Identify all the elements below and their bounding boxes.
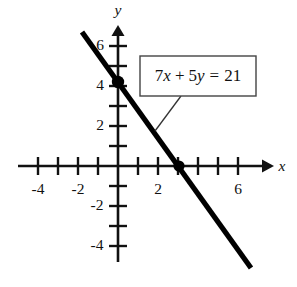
x-axis-label: x: [278, 157, 286, 174]
coordinate-plane: 7x+5y=21 -4 -2 2 6 6 4 2 -2 -4 x y: [0, 0, 297, 287]
equation-constant: 21: [224, 66, 241, 85]
x-intercept-point: [173, 160, 184, 171]
equation-text: 7x+5y=21: [155, 66, 241, 85]
x-tick-label--4: -4: [32, 180, 45, 197]
x-tick-label--2: -2: [72, 180, 85, 197]
equation-coef-y: 5: [189, 66, 198, 85]
y-axis-arrow-icon: [112, 25, 125, 36]
y-tick-label-6: 6: [96, 36, 104, 53]
y-tick-label-4: 4: [96, 76, 104, 93]
equation-operator: +: [175, 66, 185, 85]
y-intercept-point: [112, 76, 124, 88]
x-axis: [18, 157, 274, 175]
equation-var-y: y: [195, 66, 205, 85]
equation-callout: 7x+5y=21: [140, 56, 256, 96]
x-tick-label-2: 2: [154, 180, 162, 197]
callout-leader-line: [155, 96, 181, 131]
y-axis-label: y: [113, 1, 122, 18]
y-tick-label--2: -2: [91, 196, 104, 213]
equation-equals: =: [210, 66, 220, 85]
x-axis-arrow-icon: [262, 160, 274, 173]
graph-figure: 7x+5y=21 -4 -2 2 6 6 4 2 -2 -4 x y: [0, 0, 297, 287]
y-tick-label-2: 2: [96, 116, 104, 133]
x-tick-label-6: 6: [234, 180, 242, 197]
equation-var-x: x: [162, 66, 171, 85]
y-tick-label--4: -4: [91, 236, 104, 253]
y-axis: [109, 25, 127, 262]
